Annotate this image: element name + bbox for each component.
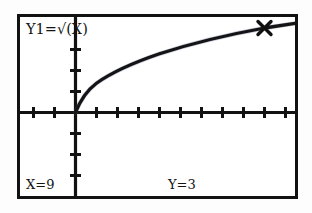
function-curve — [76, 23, 296, 112]
curve-scan-fringe — [76, 23, 296, 112]
expression-label: Y1=√(X) — [26, 21, 88, 37]
y-value-readout: Y=3 — [168, 177, 196, 192]
graph-plot-area — [20, 17, 295, 196]
expression-text: Y1=√(X) — [26, 21, 88, 37]
calculator-screen: Y1=√(X) X=9 Y=3 — [17, 14, 298, 199]
x-value-readout: X=9 — [26, 177, 54, 192]
